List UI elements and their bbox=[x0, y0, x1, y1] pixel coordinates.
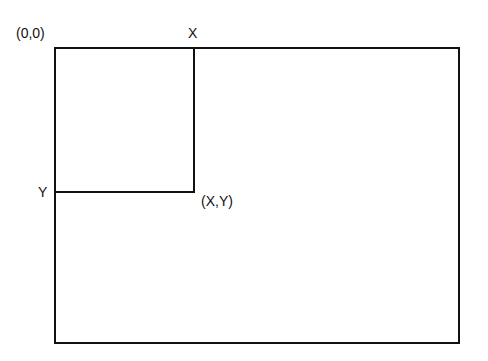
point-label: (X,Y) bbox=[201, 193, 233, 209]
inner-horizontal-line bbox=[54, 191, 195, 193]
x-label: X bbox=[188, 25, 197, 41]
inner-vertical-line bbox=[193, 47, 195, 193]
y-label: Y bbox=[38, 184, 47, 200]
outer-rectangle bbox=[54, 47, 460, 344]
origin-label: (0,0) bbox=[16, 25, 45, 41]
